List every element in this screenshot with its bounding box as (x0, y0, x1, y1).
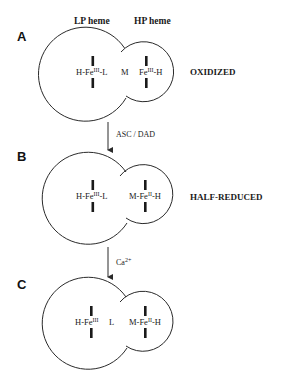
heme-axial-bar-icon (145, 56, 148, 66)
heme-axial-bar-icon (92, 180, 95, 190)
heme-axial-bar-icon (92, 56, 95, 66)
hp-heme-header: HP heme (134, 16, 171, 26)
lp-heme-label: H-FeIII-L (76, 191, 108, 201)
lp-heme-header: LP heme (74, 16, 110, 26)
heme-axial-bar-icon (144, 328, 147, 338)
heme-axial-bar-icon (144, 202, 147, 212)
heme-redox-diagram: LP heme HP heme A H-FeIII-L M FeIII-H OX… (0, 0, 287, 390)
lp-heme-label: H-FeIII-L (76, 67, 108, 77)
heme-axial-bar-icon (90, 328, 93, 338)
lp-heme-label: H-FeIII (75, 317, 98, 327)
panel-b: B H-FeIII-L M-FeII-H HALF-REDUCED (17, 149, 263, 244)
mid-ligand-label: L (109, 317, 114, 327)
heme-axial-bar-icon (144, 306, 147, 316)
hp-heme-label: FeIII-H (139, 67, 162, 77)
arrow-label: ASC / DAD (116, 130, 155, 139)
heme-axial-bar-icon (92, 78, 95, 88)
heme-axial-bar-icon (92, 202, 95, 212)
panel-c: C H-FeIII L M-FeII-H (17, 277, 173, 369)
heme-axial-bar-icon (145, 78, 148, 88)
transition-arrow-2: Ca2+ (108, 247, 132, 277)
state-label: OXIDIZED (190, 67, 236, 77)
heme-axial-bar-icon (144, 180, 147, 190)
hp-heme-label: M-FeII-H (129, 317, 161, 327)
panel-letter: C (17, 277, 27, 292)
panel-a: A H-FeIII-L M FeIII-H OXIDIZED (17, 27, 236, 121)
hp-heme-label: M-FeII-H (129, 191, 161, 201)
heme-axial-bar-icon (90, 306, 93, 316)
panel-letter: A (17, 29, 27, 44)
mid-ligand-label: M (121, 67, 129, 77)
arrow-label: Ca2+ (116, 257, 132, 267)
panel-letter: B (17, 149, 26, 164)
transition-arrow-1: ASC / DAD (108, 122, 155, 150)
state-label: HALF-REDUCED (190, 192, 263, 202)
